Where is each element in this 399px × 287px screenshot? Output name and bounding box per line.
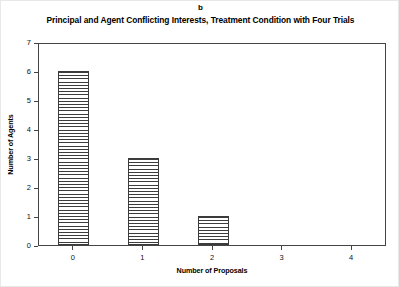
x-tick-label: 1 xyxy=(122,253,162,262)
x-tick-label: 3 xyxy=(262,253,302,262)
x-tick-mark xyxy=(212,246,213,250)
y-tick-label: 2 xyxy=(27,183,31,192)
bar xyxy=(128,158,159,245)
x-axis: 01234 xyxy=(38,246,386,266)
x-tick-label: 2 xyxy=(192,253,232,262)
x-tick-mark xyxy=(142,246,143,250)
y-tick-label: 3 xyxy=(27,154,31,163)
y-tick-label: 7 xyxy=(27,38,31,47)
y-tick-label: 6 xyxy=(27,67,31,76)
y-tick-label: 4 xyxy=(27,125,31,134)
bars-container xyxy=(39,44,385,245)
chart-title: Principal and Agent Conflicting Interest… xyxy=(1,15,399,25)
y-axis: 01234567 xyxy=(1,43,38,246)
panel-label: b xyxy=(1,3,399,12)
x-tick-mark xyxy=(281,246,282,250)
y-tick-label: 1 xyxy=(27,212,31,221)
x-tick-label: 4 xyxy=(331,253,371,262)
x-tick-label: 0 xyxy=(53,253,93,262)
bar xyxy=(198,216,229,245)
bar xyxy=(58,71,89,245)
x-axis-title: Number of Proposals xyxy=(38,266,386,275)
y-tick-label: 5 xyxy=(27,96,31,105)
x-tick-mark xyxy=(351,246,352,250)
x-tick-mark xyxy=(72,246,73,250)
y-tick-label: 0 xyxy=(27,241,31,250)
plot-area xyxy=(38,43,386,246)
figure-panel-b: b Principal and Agent Conflicting Intere… xyxy=(0,0,399,287)
